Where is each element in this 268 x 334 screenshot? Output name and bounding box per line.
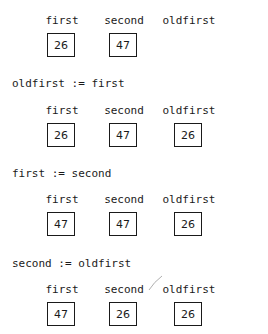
variable-swap-diagram: first second oldfirst 26 47 oldfirst := … [0,0,268,334]
pencil-stroke-mark [0,0,268,334]
